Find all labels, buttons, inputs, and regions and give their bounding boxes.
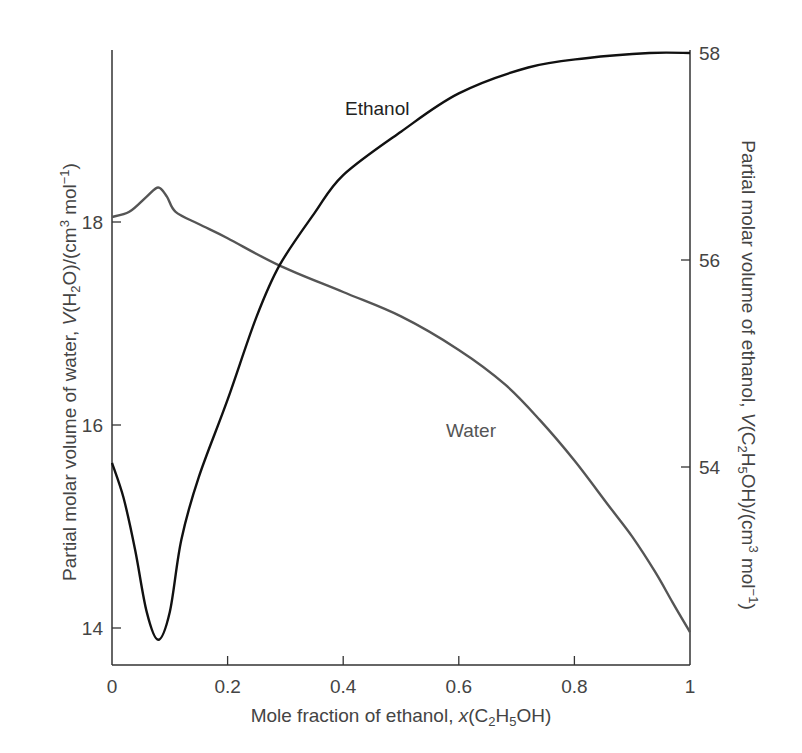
water-series-label: Water [446, 420, 497, 441]
left-y-tick-label: 14 [82, 618, 104, 639]
right-y-tick-label: 58 [699, 43, 720, 64]
right-y-tick-label: 56 [699, 250, 720, 271]
partial-molar-volume-chart: 00.20.40.60.81 141618 545658 Ethanol Wat… [0, 0, 802, 753]
x-tick-label: 0.4 [330, 676, 357, 697]
right-y-ticks: 545658 [681, 43, 721, 478]
left-y-axis-title: Partial molar volume of water, V(H2O)/(c… [57, 163, 83, 581]
left-y-ticks: 141618 [82, 212, 121, 639]
x-tick-label: 0 [107, 676, 118, 697]
right-y-tick-label: 54 [699, 457, 721, 478]
water-series-line [112, 188, 690, 633]
axes [112, 50, 690, 665]
x-axis-title: Mole fraction of ethanol, x(C2H5OH) [251, 705, 552, 729]
ethanol-series-label: Ethanol [345, 98, 409, 119]
x-tick-label: 1 [685, 676, 696, 697]
left-y-tick-label: 18 [82, 212, 103, 233]
x-ticks: 00.20.40.60.81 [107, 656, 696, 697]
x-tick-label: 0.6 [446, 676, 472, 697]
right-y-axis-title: Partial molar volume of ethanol, V(C2H5O… [735, 140, 761, 609]
x-tick-label: 0.8 [561, 676, 587, 697]
ethanol-series-line [112, 53, 690, 640]
x-tick-label: 0.2 [214, 676, 240, 697]
left-y-tick-label: 16 [82, 415, 103, 436]
